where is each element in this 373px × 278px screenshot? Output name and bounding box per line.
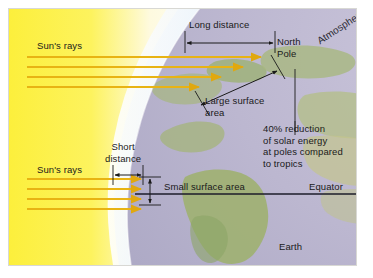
figure-root: Sun's rays Long distance North Pole Atmo… [0, 0, 373, 278]
label-north-pole: North Pole [277, 36, 301, 59]
label-small-surface-area: Small surface area [164, 181, 245, 193]
label-suns-rays-bottom: Sun's rays [37, 164, 82, 176]
diagram-canvas: Sun's rays Long distance North Pole Atmo… [8, 8, 357, 266]
label-long-distance: Long distance [189, 19, 249, 31]
label-earth: Earth [279, 241, 302, 253]
label-suns-rays-top: Sun's rays [37, 40, 82, 52]
label-short-distance: Short distance [105, 141, 141, 164]
label-equator: Equator [309, 181, 343, 193]
label-reduction-note: 40% reduction of solar energy at poles c… [263, 123, 343, 169]
label-large-surface-area: Large surface area [205, 95, 264, 118]
